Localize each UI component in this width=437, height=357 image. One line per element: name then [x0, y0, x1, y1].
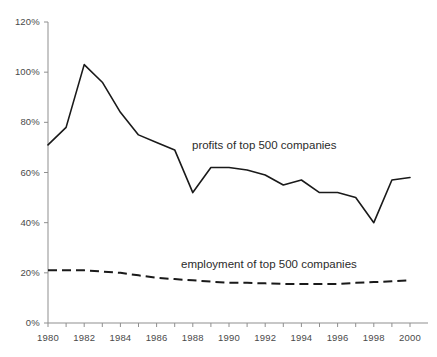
line-chart: 0%20%40%60%80%100%120% 19801982198419861…: [0, 0, 437, 357]
y-axis-tick-label: 0%: [0, 317, 40, 328]
y-axis-tick-label: 20%: [0, 267, 40, 278]
series-annotation-employment: employment of top 500 companies: [181, 258, 357, 270]
y-axis-tick-label: 120%: [0, 16, 40, 27]
y-axis-tick-label: 40%: [0, 217, 40, 228]
series-layer: [48, 65, 410, 284]
y-axis-ticks: [44, 22, 48, 323]
y-axis-tick-label: 80%: [0, 116, 40, 127]
chart-plot-area: [0, 0, 437, 357]
series-annotation-profits: profits of top 500 companies: [192, 139, 336, 151]
y-axis-tick-label: 60%: [0, 167, 40, 178]
x-axis-tick-label: 2000: [385, 332, 435, 343]
x-axis-ticks: [48, 323, 410, 327]
axes: [48, 22, 428, 323]
series-line-employment: [48, 270, 410, 284]
y-axis-tick-label: 100%: [0, 66, 40, 77]
